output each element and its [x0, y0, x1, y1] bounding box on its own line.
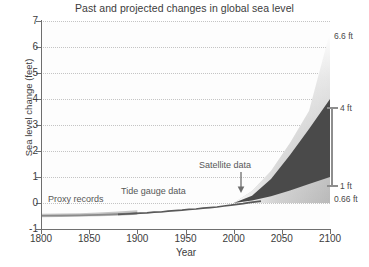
- x-tick-label-1900: 1900: [115, 233, 159, 244]
- label-lower-bound-0-66-ft: 0.66 ft: [334, 194, 358, 204]
- likely-range-error-bar: [331, 108, 333, 186]
- chart-title: Past and projected changes in global sea…: [0, 2, 369, 14]
- x-tick-label-1950: 1950: [164, 233, 208, 244]
- x-tick-label-1850: 1850: [67, 233, 111, 244]
- error-bar-cap-top: [327, 107, 338, 109]
- annotation-proxy-records: Proxy records: [48, 194, 104, 204]
- y-tick-label-0: 0: [0, 197, 38, 208]
- x-axis-title: Year: [41, 247, 331, 258]
- annotation-satellite-data: Satellite data: [199, 160, 251, 170]
- x-tick-label-2000: 2000: [212, 233, 256, 244]
- x-tick-label-2050: 2050: [260, 233, 304, 244]
- y-axis-spine: [41, 20, 42, 230]
- tide-gauge-line: [118, 201, 261, 214]
- satellite-data-arrow-icon: [236, 172, 246, 194]
- x-tick-label-1800: 1800: [19, 233, 63, 244]
- error-bar-cap-bottom: [327, 185, 338, 187]
- annotation-tide-gauge-data: Tide gauge data: [121, 186, 186, 196]
- y-tick-label-neg1: -1: [0, 223, 38, 234]
- sea-level-chart-figure: Past and projected changes in global sea…: [0, 0, 369, 267]
- label-upper-bound-6-6-ft: 6.6 ft: [334, 31, 353, 41]
- label-likely-upper-4-ft: 4 ft: [340, 103, 352, 113]
- label-likely-lower-1-ft: 1 ft: [340, 181, 352, 191]
- y-axis-title: Sea level change (feet): [23, 33, 34, 183]
- y-tick-label-7: 7: [0, 15, 38, 26]
- x-tick-label-2100: 2100: [308, 233, 352, 244]
